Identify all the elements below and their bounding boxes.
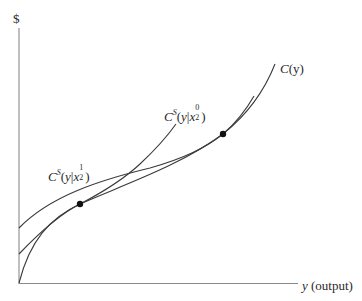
label-sup-index: 0	[195, 104, 199, 112]
x-axis-unit: (output)	[311, 278, 353, 293]
label-paren: )	[85, 169, 89, 184]
label-superscript: S	[173, 108, 177, 117]
x-axis-variable: y	[302, 278, 308, 293]
label-paren: )	[201, 109, 205, 124]
short-run-cost-x2-0-curve	[19, 124, 176, 254]
label-arg: (y)	[289, 61, 304, 76]
short-run-cost-x2-1-label: CS(y|x12)	[48, 170, 90, 183]
short-run-cost-x2-1-curve	[19, 96, 254, 228]
label-superscript: S	[57, 168, 61, 177]
y-axis-label: $	[13, 12, 20, 25]
label-main: C	[280, 61, 289, 76]
label-sub-index: 2	[195, 114, 199, 122]
cost-curves-diagram: $ y (output) C(y) CS(y|x02) CS(y|x12)	[0, 0, 362, 301]
dollar-sign-label: $	[13, 11, 20, 26]
label-sup-index: 1	[79, 164, 83, 172]
short-run-cost-x2-0-label: CS(y|x02)	[164, 110, 206, 123]
x-axis-label: y (output)	[302, 279, 353, 292]
label-main: C	[164, 109, 173, 124]
tangency-point-low	[77, 201, 83, 207]
long-run-cost-label: C(y)	[280, 62, 304, 75]
tangency-point-high	[220, 131, 226, 137]
label-sub-index: 2	[79, 174, 83, 182]
diagram-canvas	[0, 0, 362, 301]
label-main: C	[48, 169, 57, 184]
